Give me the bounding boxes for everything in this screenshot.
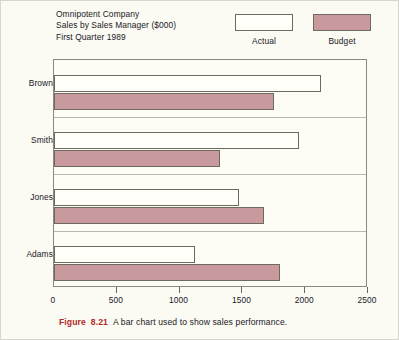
y-axis-label-jones: Jones [30, 192, 53, 202]
y-axis-labels: BrownSmithJonesAdams [9, 59, 53, 287]
plot-area [53, 59, 367, 287]
bar-adams-budget [54, 264, 280, 281]
y-axis-label-adams: Adams [26, 249, 53, 259]
x-axis-tick-label: 0 [51, 295, 56, 305]
legend-entry-actual: Actual [234, 14, 294, 46]
bar-jones-actual [54, 189, 239, 206]
y-axis-label-smith: Smith [31, 135, 53, 145]
figure-page: Omnipotent Company Sales by Sales Manage… [0, 0, 399, 340]
chart-title-line-1: Omnipotent Company [56, 9, 176, 20]
bar-smith-actual [54, 132, 299, 149]
gridline [54, 231, 366, 232]
bar-adams-actual [54, 246, 195, 263]
chart-header: Omnipotent Company Sales by Sales Manage… [56, 9, 376, 57]
x-axis-tick-label: 2000 [295, 295, 314, 305]
x-axis-tick-label: 500 [109, 295, 123, 305]
caption-figure-number: 8.21 [91, 317, 108, 327]
caption-figure-label: Figure [59, 317, 86, 327]
chart-title-block: Omnipotent Company Sales by Sales Manage… [56, 9, 176, 43]
legend-swatch-budget [313, 14, 371, 31]
x-axis-tick-label: 1000 [169, 295, 188, 305]
x-axis-tick [367, 287, 368, 293]
bar-smith-budget [54, 150, 220, 167]
x-axis-tick-label: 2500 [357, 295, 376, 305]
legend-label-budget: Budget [312, 36, 372, 46]
legend-swatch-actual [235, 14, 293, 31]
bar-jones-budget [54, 207, 264, 224]
x-axis: 05001000150020002500 [53, 287, 367, 317]
legend-label-actual: Actual [234, 36, 294, 46]
x-axis-tick [179, 287, 180, 293]
bar-brown-budget [54, 93, 274, 110]
gridline [54, 174, 366, 175]
chart-title-line-3: First Quarter 1989 [56, 32, 176, 43]
chart-legend: Actual Budget [234, 14, 379, 58]
chart-title-line-2: Sales by Sales Manager ($000) [56, 20, 176, 31]
figure-caption: Figure 8.21 A bar chart used to show sal… [59, 317, 287, 327]
x-axis-tick [241, 287, 242, 293]
x-axis-tick [116, 287, 117, 293]
caption-text: A bar chart used to show sales performan… [113, 317, 287, 327]
x-axis-tick-label: 1500 [232, 295, 251, 305]
x-axis-tick [304, 287, 305, 293]
y-axis-label-brown: Brown [29, 78, 53, 88]
gridline [54, 117, 366, 118]
legend-entry-budget: Budget [312, 14, 372, 46]
bar-brown-actual [54, 75, 321, 92]
